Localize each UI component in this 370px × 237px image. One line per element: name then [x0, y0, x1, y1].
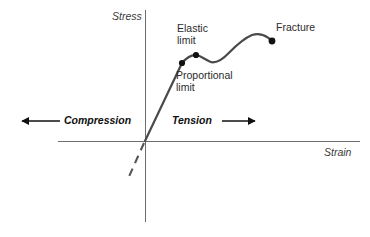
tension-region-label: Tension — [172, 114, 212, 126]
stress-strain-figure: Stress Strain Elastic limit Proportional… — [0, 0, 370, 237]
elastic-limit-label-line2: limit — [177, 34, 208, 46]
elastic-limit-label-line1: Elastic — [177, 22, 208, 34]
fracture-point — [269, 38, 276, 45]
proportional-limit-point — [179, 60, 185, 66]
proportional-limit-label-line1: Proportional — [176, 69, 233, 81]
elastic-limit-point — [193, 52, 199, 58]
y-axis-label: Stress — [112, 10, 142, 22]
compression-region-label: Compression — [64, 114, 131, 126]
x-axis-label: Strain — [324, 146, 351, 158]
compression-dashed-line — [127, 143, 144, 181]
proportional-limit-label-line2: limit — [176, 81, 233, 93]
fracture-label: Fracture — [276, 21, 315, 33]
elastic-limit-label: Elastic limit — [177, 22, 208, 47]
proportional-limit-label: Proportional limit — [176, 69, 233, 94]
